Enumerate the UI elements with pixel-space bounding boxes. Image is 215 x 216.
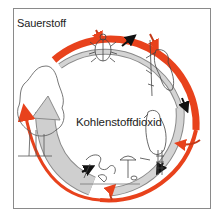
oxygen-label: Sauerstoff — [17, 17, 66, 29]
carbon-dioxide-label: Kohlenstoffdioxid — [76, 116, 162, 128]
cycle-diagram — [0, 0, 215, 216]
